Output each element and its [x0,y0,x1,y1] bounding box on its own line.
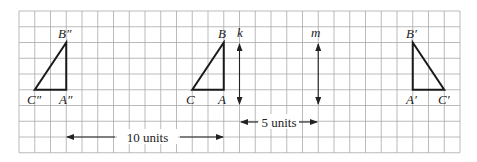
label-c: C [186,92,195,107]
label-c2: C″ [27,92,42,107]
label-b1: B′ [406,26,417,41]
label-a1: A′ [405,92,417,107]
label-k: k [237,25,243,40]
label-c1: C′ [438,92,450,107]
label-b2: B″ [58,26,72,41]
label-m: m [311,25,320,40]
transformation-diagram: 10 units 5 units B″ C″ A″ B C A B′ A′ C′… [0,0,477,162]
ten-units-label: 10 units [127,130,169,145]
five-units-label: 5 units [261,115,296,130]
label-b: B [218,26,226,41]
label-a2: A″ [58,92,73,107]
label-a: A [217,92,226,107]
